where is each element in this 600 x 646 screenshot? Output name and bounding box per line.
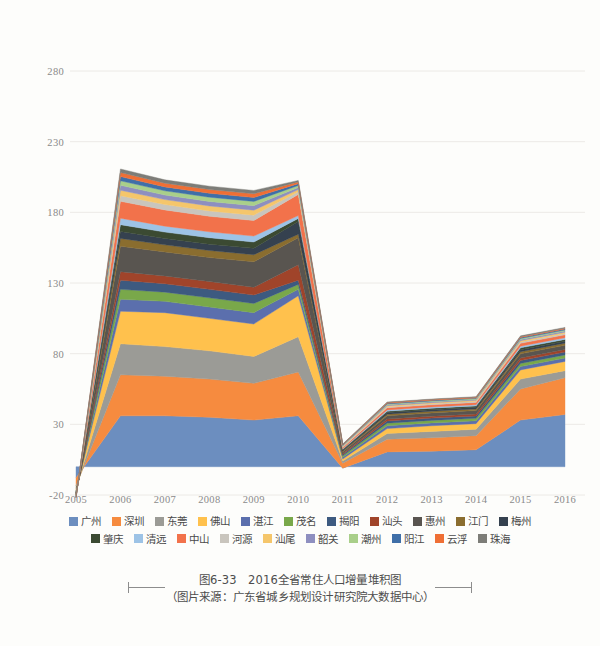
x-axis-tick-label: 2011	[332, 494, 354, 505]
legend-label: 深圳	[124, 516, 144, 527]
legend-row: 肇庆清远中山河源汕尾韶关潮州阳江云浮珠海	[91, 534, 510, 545]
legend-swatch-icon	[413, 517, 422, 526]
x-axis-tick-label: 2008	[198, 494, 220, 505]
legend-item-深圳[interactable]: 深圳	[112, 516, 144, 527]
legend-swatch-icon	[284, 517, 293, 526]
legend-item-中山[interactable]: 中山	[177, 534, 209, 545]
y-axis-tick-label: 230	[47, 137, 64, 148]
legend-item-阳江[interactable]: 阳江	[392, 534, 424, 545]
legend-label: 清远	[146, 534, 166, 545]
legend-item-云浮[interactable]: 云浮	[435, 534, 467, 545]
figure-container: -203080130180230280200520062007200820092…	[0, 0, 600, 646]
legend-label: 揭阳	[339, 516, 359, 527]
legend-item-江门[interactable]: 江门	[456, 516, 488, 527]
legend-label: 汕尾	[275, 534, 295, 545]
legend-label: 江门	[468, 516, 488, 527]
legend-swatch-icon	[306, 534, 315, 543]
chart-plot-area: -203080130180230280200520062007200820092…	[0, 0, 600, 515]
x-axis-tick-label: 2016	[554, 494, 576, 505]
legend-label: 河源	[232, 534, 252, 545]
legend-swatch-icon	[327, 517, 336, 526]
legend-swatch-icon	[134, 534, 143, 543]
legend-swatch-icon	[155, 517, 164, 526]
legend-label: 肇庆	[103, 534, 123, 545]
legend-label: 佛山	[210, 516, 230, 527]
legend-swatch-icon	[456, 517, 465, 526]
legend-swatch-icon	[241, 517, 250, 526]
legend-label: 云浮	[447, 534, 467, 545]
legend-label: 中山	[189, 534, 209, 545]
caption-title: 图6-33 2016全省常住人口增量堆积图	[0, 572, 600, 589]
legend-swatch-icon	[499, 517, 508, 526]
legend-item-汕头[interactable]: 汕头	[370, 516, 402, 527]
figure-caption: 图6-33 2016全省常住人口增量堆积图 （图片来源：广东省城乡规划设计研究院…	[0, 572, 600, 606]
legend-label: 东莞	[167, 516, 187, 527]
x-axis-tick-label: 2010	[287, 494, 309, 505]
y-axis-tick-label: 180	[47, 207, 64, 218]
y-axis-tick-label: 30	[53, 419, 64, 430]
legend-swatch-icon	[198, 517, 207, 526]
legend-swatch-icon	[91, 534, 100, 543]
legend-swatch-icon	[349, 534, 358, 543]
legend-item-潮州[interactable]: 潮州	[349, 534, 381, 545]
legend-swatch-icon	[112, 517, 121, 526]
legend-item-梅州[interactable]: 梅州	[499, 516, 531, 527]
legend-item-揭阳[interactable]: 揭阳	[327, 516, 359, 527]
legend-label: 潮州	[361, 534, 381, 545]
legend-swatch-icon	[220, 534, 229, 543]
legend-label: 茂名	[296, 516, 316, 527]
legend-swatch-icon	[435, 534, 444, 543]
legend-item-佛山[interactable]: 佛山	[198, 516, 230, 527]
legend-label: 梅州	[511, 516, 531, 527]
legend-swatch-icon	[392, 534, 401, 543]
legend-swatch-icon	[69, 517, 78, 526]
x-axis-tick-label: 2007	[154, 494, 176, 505]
legend-item-湛江[interactable]: 湛江	[241, 516, 273, 527]
legend-item-汕尾[interactable]: 汕尾	[263, 534, 295, 545]
caption-source: （图片来源：广东省城乡规划设计研究院大数据中心）	[0, 589, 600, 606]
legend-item-肇庆[interactable]: 肇庆	[91, 534, 123, 545]
legend-label: 珠海	[490, 534, 510, 545]
legend-label: 阳江	[404, 534, 424, 545]
legend-item-珠海[interactable]: 珠海	[478, 534, 510, 545]
chart-legend: 广州深圳东莞佛山湛江茂名揭阳汕头惠州江门梅州肇庆清远中山河源汕尾韶关潮州阳江云浮…	[0, 516, 600, 544]
legend-item-河源[interactable]: 河源	[220, 534, 252, 545]
legend-item-茂名[interactable]: 茂名	[284, 516, 316, 527]
x-axis-tick-label: 2005	[65, 494, 87, 505]
legend-swatch-icon	[478, 534, 487, 543]
legend-item-韶关[interactable]: 韶关	[306, 534, 338, 545]
legend-row: 广州深圳东莞佛山湛江茂名揭阳汕头惠州江门梅州	[69, 516, 531, 527]
legend-item-清远[interactable]: 清远	[134, 534, 166, 545]
y-axis-tick-label: 80	[53, 349, 64, 360]
legend-item-广州[interactable]: 广州	[69, 516, 101, 527]
x-axis-tick-label: 2014	[465, 494, 488, 505]
y-axis-tick-label: 130	[47, 278, 64, 289]
legend-label: 广州	[81, 516, 101, 527]
legend-swatch-icon	[263, 534, 272, 543]
legend-label: 韶关	[318, 534, 338, 545]
legend-label: 湛江	[253, 516, 273, 527]
x-axis-tick-label: 2012	[376, 494, 398, 505]
legend-swatch-icon	[370, 517, 379, 526]
x-axis-tick-label: 2015	[509, 494, 531, 505]
legend-label: 汕头	[382, 516, 402, 527]
y-axis-tick-label: 280	[47, 66, 64, 77]
x-axis-tick-label: 2013	[421, 494, 443, 505]
stacked-area-chart: -203080130180230280200520062007200820092…	[0, 0, 600, 515]
legend-item-东莞[interactable]: 东莞	[155, 516, 187, 527]
x-axis-tick-label: 2009	[243, 494, 265, 505]
y-axis-tick-label: -20	[49, 490, 64, 501]
legend-swatch-icon	[177, 534, 186, 543]
legend-item-惠州[interactable]: 惠州	[413, 516, 445, 527]
x-axis-tick-label: 2006	[109, 494, 131, 505]
legend-label: 惠州	[425, 516, 445, 527]
